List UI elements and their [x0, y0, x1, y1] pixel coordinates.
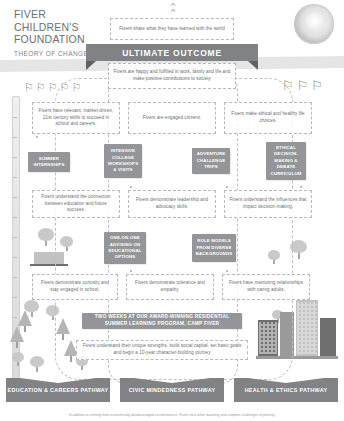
outcome-card-citizens-text: Fivers are engaged citizens.	[143, 115, 202, 122]
outcome-card-tolerance: Fivers demonstrate tolerance and empathy…	[126, 274, 214, 300]
tree-icon	[12, 352, 24, 366]
outcome-card-leadership: Fivers demonstrate leadership and advoca…	[128, 190, 216, 218]
footnote: In addition to coming from economically …	[14, 413, 330, 418]
pathway-education-careers[interactable]: EDUCATION & CAREERS PATHWAY	[6, 378, 110, 402]
connector-dot	[36, 136, 38, 138]
pathway-health-ethics-label: HEALTH & ETHICS PATHWAY	[245, 386, 328, 395]
outcome-card-foundation-text: Fivers understand their unique strengths…	[81, 343, 243, 357]
program-chip-camp-fiver-label: TWO WEEKS AT OUR AWARD-WINNING RESIDENTI…	[86, 314, 238, 328]
outcome-card-share-text: Fivers share what they have learned with…	[119, 26, 225, 33]
connector-dot	[226, 270, 228, 272]
connector-dot	[130, 270, 132, 272]
outcome-card-ultimate-text: Fivers are happy and fulfilled in work, …	[113, 69, 231, 83]
outcome-card-skills: Fivers have relevant, market-driven, 21s…	[32, 102, 120, 134]
connector-dot	[130, 186, 132, 188]
brand-subtitle: THEORY OF CHANGE	[14, 50, 88, 57]
outcome-card-education-connection: Fivers understand the connection between…	[32, 190, 120, 218]
ultimate-outcome-ribbon: ULTIMATE OUTCOME	[86, 44, 258, 61]
brand-line-1: FIVER	[14, 8, 88, 21]
conifer-icon	[10, 326, 24, 348]
brand-block: FIVER CHILDREN'S FOUNDATION THEORY OF CH…	[14, 8, 88, 57]
brand-line-3: FOUNDATION	[14, 33, 88, 46]
outcome-card-ultimate: Fivers are happy and fulfilled in work, …	[108, 63, 236, 89]
program-chip-college-workshops[interactable]: INTENSIVE COLLEGE WORKSHOPS & VISITS	[104, 144, 142, 178]
program-chip-adventure-trips[interactable]: ADVENTURE CHALLENGE TRIPS	[192, 148, 230, 174]
tree-icon	[30, 356, 44, 372]
program-chip-one-on-one-advising-label: ONE-ON-ONE ADVISING ON EDUCATIONAL OPTIO…	[106, 235, 144, 261]
tree-icon	[38, 228, 54, 246]
sun-core-icon	[306, 12, 324, 30]
ultimate-outcome-label: ULTIMATE OUTCOME	[122, 48, 222, 58]
program-chip-ethical-curriculum-label: ETHICAL DECISION-MAKING & DEBATE CURRICU…	[268, 145, 304, 177]
program-chip-one-on-one-advising[interactable]: ONE-ON-ONE ADVISING ON EDUCATIONAL OPTIO…	[104, 232, 146, 264]
pathway-education-careers-label: EDUCATION & CAREERS PATHWAY	[8, 386, 109, 395]
outcome-card-share: Fivers share what they have learned with…	[110, 18, 234, 40]
theory-of-change-poster: ⚐⚐⚐⚐⚐ ⚐⚐⚐ FIVER CHILDREN'S FOUNDATION TH…	[0, 0, 344, 421]
outcome-card-influences: Fivers understand the influences that im…	[224, 190, 312, 218]
outcome-card-tolerance-text: Fivers demonstrate tolerance and empathy…	[131, 280, 209, 294]
outcome-card-ethical-choices-text: Fivers make ethical and healthy life cho…	[229, 111, 307, 125]
outcome-card-citizens: Fivers are engaged citizens.	[128, 102, 216, 134]
connector-dot	[226, 186, 228, 188]
pathway-civic-mindedness-label: CIVIC MINDEDNESS PATHWAY	[129, 386, 216, 395]
sun-icon	[294, 4, 334, 44]
brand-line-2: CHILDREN'S	[14, 21, 88, 34]
outcome-card-mentoring: Fivers have mentoring relationships with…	[222, 274, 310, 300]
outcome-card-skills-text: Fivers have relevant, market-driven, 21s…	[37, 108, 115, 129]
outcome-card-education-connection-text: Fivers understand the connection between…	[37, 194, 115, 215]
city-building-icon	[320, 318, 336, 356]
pathway-health-ethics[interactable]: HEALTH & ETHICS PATHWAY	[234, 378, 338, 402]
outcome-card-curiosity-text: Fivers demonstrate curiosity and stay en…	[37, 280, 113, 294]
program-chip-role-models-label: ROLE MODELS FROM DIVERSE BACKGROUNDS	[194, 238, 234, 257]
outcome-card-curiosity: Fivers demonstrate curiosity and stay en…	[32, 274, 118, 300]
outcome-card-leadership-text: Fivers demonstrate leadership and advoca…	[133, 197, 211, 211]
program-chip-camp-fiver[interactable]: TWO WEEKS AT OUR AWARD-WINNING RESIDENTI…	[82, 313, 242, 329]
program-chip-summer-internships[interactable]: SUMMER INTERNSHIPS	[28, 152, 70, 172]
outcome-card-mentoring-text: Fivers have mentoring relationships with…	[227, 280, 305, 294]
city-windows	[297, 302, 317, 354]
outcome-card-foundation: Fivers understand their unique strengths…	[76, 340, 248, 360]
program-chip-summer-internships-label: SUMMER INTERNSHIPS	[30, 156, 68, 169]
program-chip-ethical-curriculum[interactable]: ETHICAL DECISION-MAKING & DEBATE CURRICU…	[266, 142, 306, 180]
connector-dot	[300, 186, 302, 188]
outcome-card-ethical-choices: Fivers make ethical and healthy life cho…	[224, 102, 312, 134]
outcome-card-influences-text: Fivers understand the influences that im…	[229, 197, 307, 211]
program-chip-adventure-trips-label: ADVENTURE CHALLENGE TRIPS	[194, 151, 228, 170]
program-chip-college-workshops-label: INTENSIVE COLLEGE WORKSHOPS & VISITS	[106, 148, 140, 174]
program-chip-role-models[interactable]: ROLE MODELS FROM DIVERSE BACKGROUNDS	[192, 234, 236, 262]
chevron-up-icon: ⌃⌃	[164, 4, 182, 16]
